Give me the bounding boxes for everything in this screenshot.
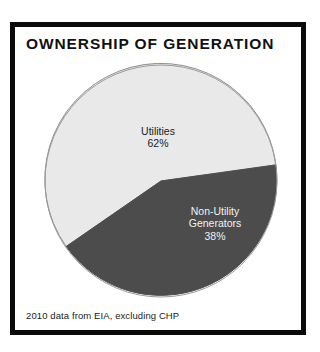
- pie-label-utilities-name: Utilities: [113, 125, 203, 137]
- pie-chart: Utilities 62% Non-Utility Generators 38%: [15, 27, 301, 330]
- pie-label-utilities-value: 62%: [113, 137, 203, 149]
- pie-label-utilities: Utilities 62%: [113, 125, 203, 150]
- figure-inner: OWNERSHIP OF GENERATION Utilities 62% No…: [15, 27, 301, 330]
- figure-frame: OWNERSHIP OF GENERATION Utilities 62% No…: [10, 22, 306, 335]
- pie-label-non-utility-name-line1: Non-Utility: [163, 205, 267, 217]
- pie-label-non-utility-value: 38%: [163, 230, 267, 242]
- source-note: 2010 data from EIA, excluding CHP: [26, 310, 179, 321]
- pie-label-non-utility-name-line2: Generators: [163, 217, 267, 229]
- pie-label-non-utility-generators: Non-Utility Generators 38%: [163, 205, 267, 242]
- pie-chart-svg: [15, 27, 301, 330]
